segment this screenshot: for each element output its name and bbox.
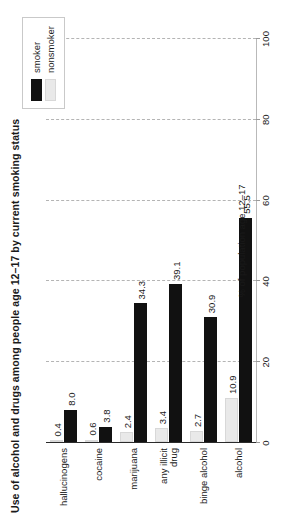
category-label: alcohol: [233, 448, 244, 527]
rotated-figure-wrapper: Use of alcohol and drugs among people ag…: [0, 0, 300, 527]
x-tick-label: 100: [260, 31, 271, 47]
x-tick-label: 0: [260, 440, 271, 445]
bar-nonsmoker: [120, 432, 133, 442]
bar-group: 3.439.1any illicit drug: [151, 39, 186, 442]
legend-item-nonsmoker[interactable]: nonsmoker: [44, 26, 57, 101]
bar-value-label: 3.8: [100, 409, 111, 426]
bar-value-label: 39.1: [170, 262, 181, 285]
bar-value-label: 2.7: [191, 414, 202, 431]
x-tick-label: 80: [260, 115, 271, 126]
bar-smoker: [204, 317, 217, 442]
chart-figure: Use of alcohol and drugs among people ag…: [0, 0, 300, 527]
bar-nonsmoker: [190, 431, 203, 442]
legend-item-smoker[interactable]: smoker: [30, 26, 43, 101]
x-axis-title: % of population age 12–17: [236, 39, 247, 443]
category-label: marijuana: [128, 448, 139, 527]
chart-legend: smoker nonsmoker: [22, 17, 65, 109]
bar-smoker: [99, 427, 112, 442]
x-tick-label: 20: [260, 357, 271, 368]
legend-swatch-nonsmoker: [45, 79, 56, 101]
bar-group: 0.63.8cocaine: [81, 39, 116, 442]
category-label: hallucinogens: [58, 448, 69, 527]
bar-value-label: 34.3: [135, 281, 146, 304]
chart-title: Use of alcohol and drugs among people ag…: [9, 119, 21, 513]
bar-value-label: 0.6: [86, 422, 97, 439]
category-axis-line: [256, 39, 257, 443]
bar-group: 2.434.3marijuana: [116, 39, 151, 442]
bar-smoker: [169, 284, 182, 442]
category-label: any illicit drug: [158, 448, 179, 527]
category-label: binge alcohol: [198, 448, 209, 527]
bar-value-label: 2.4: [121, 415, 132, 432]
bar-smoker: [134, 303, 147, 442]
bar-smoker: [64, 410, 77, 442]
bar-value-label: 0.4: [51, 423, 62, 440]
bar-value-label: 3.4: [156, 411, 167, 428]
bar-value-label: 30.9: [205, 295, 216, 318]
x-tick-label: 60: [260, 195, 271, 206]
value-axis-line: [46, 442, 256, 443]
category-label: cocaine: [93, 448, 104, 527]
bar-nonsmoker: [85, 440, 98, 442]
bar-group: 2.730.9binge alcohol: [186, 39, 221, 442]
legend-label-smoker: smoker: [31, 42, 42, 73]
plot-area: 02040608010010.955.5alcohol2.730.9binge …: [46, 39, 256, 443]
x-tick-label: 40: [260, 276, 271, 287]
bar-nonsmoker: [155, 428, 168, 442]
legend-swatch-smoker: [31, 79, 42, 101]
bar-value-label: 8.0: [65, 392, 76, 409]
legend-label-nonsmoker: nonsmoker: [45, 26, 56, 73]
